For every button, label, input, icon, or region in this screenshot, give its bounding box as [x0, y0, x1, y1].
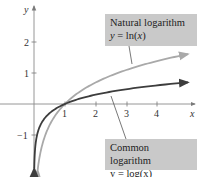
log-callout: Common logarithm y = log(x) — [105, 139, 197, 170]
ln-callout-title: Natural logarithm — [110, 16, 192, 29]
x-tick-label-2: 2 — [93, 108, 98, 119]
ln-callout: Natural logarithm y = ln(x) — [105, 14, 197, 46]
y-tick-label-1: 1 — [24, 68, 29, 79]
log-callout-equation: y = log(x) — [110, 167, 192, 177]
y-tick-label-neg1: −1 — [17, 130, 28, 141]
ln-callout-pointer — [129, 46, 132, 64]
y-tick-label-2: 2 — [24, 37, 29, 48]
x-tick-label-3: 3 — [124, 108, 129, 119]
x-axis-label: x — [189, 108, 195, 119]
x-tick-label-4: 4 — [154, 108, 159, 119]
log-callout-title: Common logarithm — [110, 141, 192, 167]
y-axis-label: y — [23, 4, 29, 15]
x-tick-label-1: 1 — [62, 108, 67, 119]
ln-callout-equation: y = ln(x) — [110, 29, 192, 42]
